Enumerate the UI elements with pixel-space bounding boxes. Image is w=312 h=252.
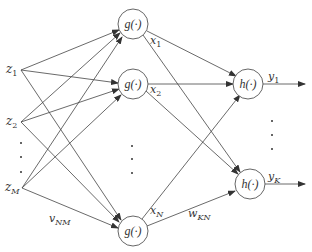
- svg-text:z1: z1: [5, 62, 17, 78]
- input-label-z1: z1: [5, 62, 17, 78]
- svg-text:xN: xN: [150, 204, 164, 219]
- hidden-output-edges: [142, 31, 240, 226]
- node-label: g(·): [125, 17, 142, 31]
- node-label: h(·): [240, 77, 257, 91]
- hidden-node-gN: g(·): [118, 216, 148, 246]
- hidden-output-label-xN: xN: [150, 204, 164, 219]
- output-node-hK: h(·): [235, 169, 265, 199]
- output-label-yK: yK: [267, 170, 281, 185]
- weight-label-wKN: wKN: [188, 207, 211, 222]
- node-label: h(·): [242, 177, 259, 191]
- node-label: g(·): [125, 77, 142, 91]
- input-label-zM: zM: [4, 180, 20, 196]
- svg-text:zM: zM: [4, 180, 20, 196]
- hidden-node-g1: g(·): [118, 9, 148, 39]
- hidden-node-g2: g(·): [118, 69, 148, 99]
- output-node-h1: h(·): [233, 69, 263, 99]
- hidden-output-label-x1: x1: [150, 34, 161, 49]
- input-hidden-edges: [21, 30, 122, 228]
- svg-text:vNM: vNM: [49, 212, 71, 227]
- neural-network-diagram: g(·) g(·) g(·) h(·) h(·) z1 z2 zM x1 x2 …: [0, 0, 312, 252]
- svg-text:x1: x1: [150, 34, 161, 49]
- output-ellipsis-dots: [271, 120, 273, 150]
- weight-label-vNM: vNM: [49, 212, 71, 227]
- svg-text:yK: yK: [267, 170, 281, 185]
- svg-text:z2: z2: [5, 114, 17, 130]
- hidden-output-label-x2: x2: [150, 83, 161, 98]
- hidden-ellipsis-dots: [131, 145, 133, 174]
- input-label-z2: z2: [5, 114, 17, 130]
- node-label: g(·): [125, 224, 142, 238]
- input-ellipsis-dots: [20, 142, 22, 173]
- svg-text:x2: x2: [150, 83, 161, 98]
- svg-text:wKN: wKN: [188, 207, 211, 222]
- output-label-y1: y1: [267, 70, 279, 85]
- svg-text:y1: y1: [267, 70, 279, 85]
